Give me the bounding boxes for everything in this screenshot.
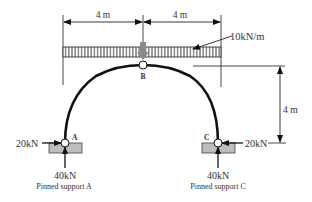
c-horizontal-force: 20kN (245, 138, 267, 149)
hinge-c-icon (214, 139, 222, 147)
a-vertical-force: 40kN (54, 170, 76, 181)
node-a-label: A (72, 133, 78, 142)
rise-label: 4 m (283, 105, 298, 115)
span-left-label: 4 m (96, 10, 111, 20)
hinge-a-icon (61, 139, 69, 147)
hinge-b-icon (139, 61, 147, 69)
span-dimension-right: 4 m (144, 10, 220, 22)
support-c-caption: Pinned support C (190, 182, 246, 191)
node-c-label: C (204, 133, 209, 142)
support-a-caption: Pinned support A (36, 182, 92, 191)
load-label: 10kN/m (230, 31, 264, 42)
three-hinged-arch-diagram: 4 m 4 m 10kN/m 4 m 20kN 40kN Pinned supp… (0, 0, 312, 202)
a-horizontal-force: 20kN (16, 138, 38, 149)
node-b-label: B (140, 72, 145, 81)
span-right-label: 4 m (173, 10, 188, 20)
span-dimension-left: 4 m (64, 10, 142, 22)
load-callout: 10kN/m (193, 31, 264, 49)
rise-dimension: 4 m (280, 67, 298, 142)
c-vertical-force: 40kN (207, 170, 229, 181)
distributed-load (63, 42, 221, 60)
